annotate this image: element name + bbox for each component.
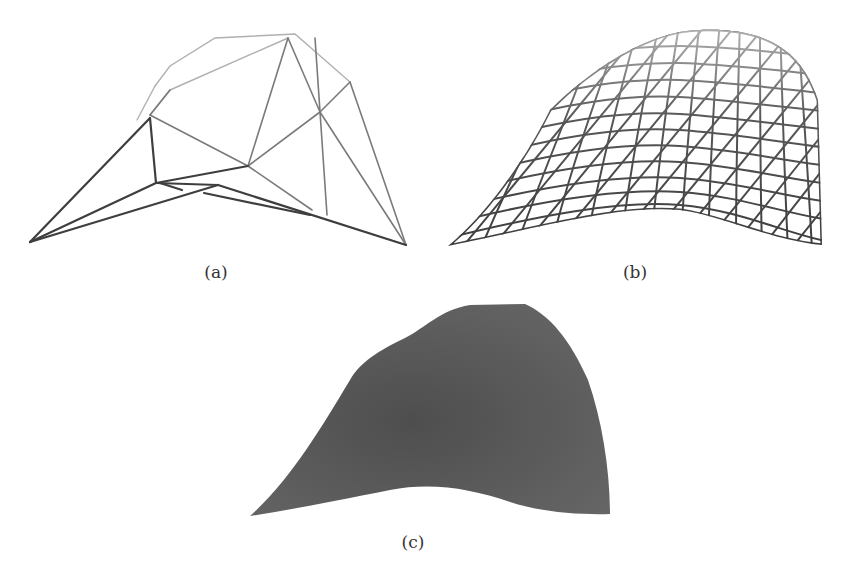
shaded-surface [230, 290, 630, 530]
refined-wireframe-mesh [440, 0, 840, 260]
caption-b: (b) [605, 262, 665, 282]
caption-c: (c) [383, 532, 443, 552]
surface-shape [250, 304, 610, 516]
subfigure-b [440, 0, 840, 260]
caption-a: (a) [186, 262, 246, 282]
subfigure-c [230, 290, 630, 530]
coarse-wireframe-mesh [20, 20, 420, 260]
subfigure-a [20, 20, 420, 260]
